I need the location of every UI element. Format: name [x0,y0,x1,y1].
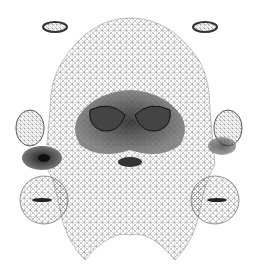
eye-patch-right [208,137,236,155]
nostril-patch-left [43,22,67,32]
pupil-left [38,154,50,162]
ear-patch-left [16,110,44,146]
nostril-patch-right [193,22,217,32]
face-mesh-image [0,0,260,274]
face-mesh [45,18,215,260]
